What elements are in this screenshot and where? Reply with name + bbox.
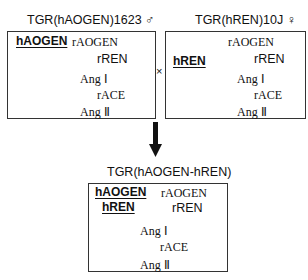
bottom-enzyme1-label: rREN <box>172 201 203 215</box>
right-product2-label: Ang Ⅱ <box>237 105 267 120</box>
left-transgene-label: hAOGEN <box>16 34 67 48</box>
big-down-arrow-head <box>149 144 162 157</box>
left-product2-label: Ang Ⅱ <box>80 105 110 120</box>
right-product1-label: Ang Ⅰ <box>237 72 265 87</box>
bottom-enzyme2-label: rACE <box>160 240 188 255</box>
bottom-panel-title: TGR(hAOGEN-hREN) <box>107 165 231 179</box>
left-enzyme2-label: rACE <box>97 88 125 103</box>
left-substrate-label: rAOGEN <box>72 35 118 50</box>
cross-symbol: × <box>156 65 162 77</box>
left-enzyme1-label: rREN <box>97 52 128 66</box>
left-product1-label: Ang Ⅰ <box>80 72 108 87</box>
bottom-transgene2-label: hREN <box>102 200 135 214</box>
right-substrate-label: rAOGEN <box>228 35 274 50</box>
right-panel-title: TGR(hREN)10J ♀ <box>195 13 296 27</box>
big-down-arrow-shaft <box>153 122 158 146</box>
left-panel-title: TGR(hAOGEN)1623 ♂ <box>27 13 154 27</box>
bottom-product2-label: Ang Ⅱ <box>140 258 170 273</box>
right-transgene-label: hREN <box>173 54 206 68</box>
bottom-product1-label: Ang Ⅰ <box>140 224 168 239</box>
bottom-transgene1-label: hAOGEN <box>95 185 146 199</box>
bottom-substrate-label: rAOGEN <box>161 186 207 201</box>
right-enzyme1-label: rREN <box>254 52 285 66</box>
right-enzyme2-label: rACE <box>254 88 282 103</box>
